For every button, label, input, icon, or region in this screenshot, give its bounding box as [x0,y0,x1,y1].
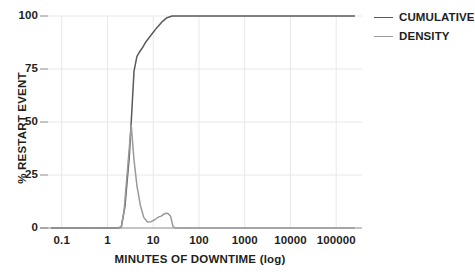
x-tick-label: 100000 [301,234,371,246]
legend-item-cumulative[interactable]: CUMULATIVE [374,11,475,23]
gridlines [48,16,362,228]
x-axis-title: MINUTES OF DOWNTIME (log) [0,253,400,265]
legend-line-icon [374,17,393,18]
legend-line-icon [374,36,393,37]
legend-label: DENSITY [399,30,450,42]
chart-legend: CUMULATIVEDENSITY [374,11,475,42]
y-tick-label: 100 [2,9,38,21]
series-line-density [52,125,355,228]
y-tick-label: 0 [2,221,38,233]
legend-label: CUMULATIVE [399,11,475,23]
legend-item-density[interactable]: DENSITY [374,30,475,42]
y-axis-title: % RESTART EVENT [16,53,28,203]
